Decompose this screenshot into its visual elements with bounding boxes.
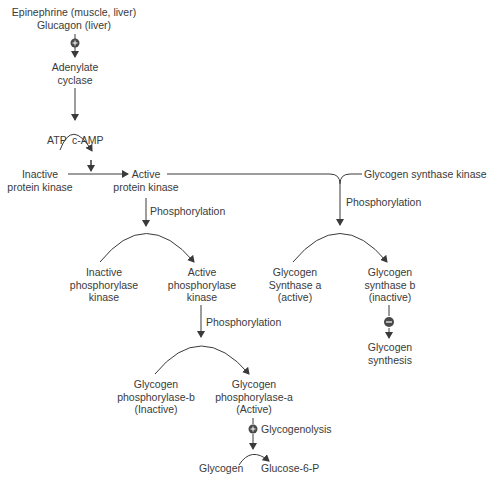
- gsynth-line2: synthesis: [352, 354, 428, 367]
- glycogen-synthase-a-label: Glycogen Synthase a (active): [257, 266, 333, 304]
- inhibit-icon: [384, 317, 394, 327]
- glycogenolysis-label: Glycogenolysis: [261, 423, 332, 436]
- camp-label: c-AMP: [72, 134, 104, 147]
- glycogen-synthesis-label: Glycogen synthesis: [352, 341, 428, 366]
- phosphorylation-label-1: Phosphorylation: [150, 205, 225, 218]
- gpa-line1: Glycogen: [204, 378, 304, 391]
- arc-phosphorylase-kinase: [100, 234, 194, 263]
- active-pk-line2: protein kinase: [108, 181, 184, 194]
- stimulate-icon: [71, 39, 80, 48]
- inactive-phk-line3: kinase: [62, 291, 146, 304]
- inactive-pk-line2: protein kinase: [2, 181, 78, 194]
- inactive-protein-kinase-label: Inactive protein kinase: [2, 168, 78, 193]
- glycogen-label: Glycogen: [199, 462, 243, 475]
- inactive-pk-line1: Inactive: [2, 168, 78, 181]
- hormones-line1: Epinephrine (muscle, liver): [4, 6, 144, 19]
- gpb-line2: phosphorylase-b: [108, 391, 204, 404]
- arc-glycogen-synthase: [293, 234, 387, 263]
- active-phk-line1: Active: [160, 266, 244, 279]
- phosphorylation-label-2: Phosphorylation: [346, 196, 421, 209]
- arc-phosphorylase: [155, 346, 249, 374]
- gsb-line1: Glycogen: [352, 266, 428, 279]
- adenylate-line1: Adenylate: [40, 61, 110, 74]
- stimulate-icon-glycogenolysis: [249, 425, 258, 434]
- atp-label: ATP: [47, 134, 67, 147]
- glycogen-synthase-kinase-label: Glycogen synthase kinase: [364, 168, 487, 181]
- active-phk-line3: kinase: [160, 291, 244, 304]
- inactive-phosphorylase-kinase-label: Inactive phosphorylase kinase: [62, 266, 146, 304]
- glycogen-phosphorylase-a-label: Glycogen phosphorylase-a (Active): [204, 378, 304, 416]
- gsb-line2: synthase b: [352, 279, 428, 292]
- inactive-phk-line1: Inactive: [62, 266, 146, 279]
- gsb-line3: (inactive): [352, 291, 428, 304]
- glycogen-synthase-b-label: Glycogen synthase b (inactive): [352, 266, 428, 304]
- phosphorylation-label-3: Phosphorylation: [206, 316, 281, 329]
- hormones-label: Epinephrine (muscle, liver) Glucagon (li…: [4, 6, 144, 31]
- gsynth-line1: Glycogen: [352, 341, 428, 354]
- adenylate-line2: cyclase: [40, 74, 110, 87]
- gsa-line3: (active): [257, 291, 333, 304]
- hormones-line2: Glucagon (liver): [4, 19, 144, 32]
- active-protein-kinase-label: Active protein kinase: [108, 168, 184, 193]
- gsa-line1: Glycogen: [257, 266, 333, 279]
- gsa-line2: Synthase a: [257, 279, 333, 292]
- inactive-phk-line2: phosphorylase: [62, 279, 146, 292]
- glucose-6-p-label: Glucose-6-P: [261, 462, 319, 475]
- active-pk-line1: Active: [108, 168, 184, 181]
- active-phosphorylase-kinase-label: Active phosphorylase kinase: [160, 266, 244, 304]
- gpb-line3: (Inactive): [108, 403, 204, 416]
- gpb-line1: Glycogen: [108, 378, 204, 391]
- adenylate-cyclase-label: Adenylate cyclase: [40, 61, 110, 86]
- gpa-line3: (Active): [204, 403, 304, 416]
- active-phk-line2: phosphorylase: [160, 279, 244, 292]
- glycogen-phosphorylase-b-label: Glycogen phosphorylase-b (Inactive): [108, 378, 204, 416]
- gpa-line2: phosphorylase-a: [204, 391, 304, 404]
